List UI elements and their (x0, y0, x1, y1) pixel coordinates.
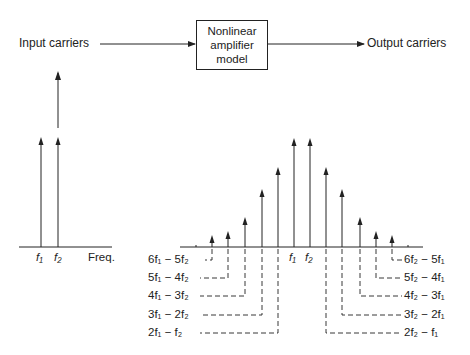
right-leaders (326, 249, 402, 333)
box-line-1: Nonlinear (207, 24, 256, 38)
spectral-line (276, 167, 281, 247)
output-spectral-lines (210, 138, 395, 247)
left-leaders (200, 249, 278, 333)
right-label-6f2-5f1: 6f₂ − 5f₁ (404, 253, 445, 265)
spectral-line (243, 217, 248, 247)
left-label-6f1-5f2: 6f₁ − 5f₂ (148, 253, 189, 265)
spectral-line (308, 138, 313, 247)
box-line-3: model (216, 52, 247, 66)
freq-axis-label: Freq. (88, 251, 115, 263)
nonlinear-amplifier-box: Nonlinear amplifier model (196, 20, 268, 70)
input-carriers-label: Input carriers (19, 36, 89, 50)
left-label-3f1-2f2: 3f₁ − 2f₂ (148, 308, 189, 320)
spectral-line (226, 231, 231, 247)
output-f1-label: f₁ (289, 251, 296, 263)
spectral-line (210, 235, 215, 247)
input-f2-label: f₂ (54, 251, 62, 263)
right-label-3f2-2f1: 3f₂ − 2f₁ (404, 308, 445, 320)
spectral-line (390, 235, 395, 247)
left-label-5f1-4f2: 5f₁ − 4f₂ (148, 271, 189, 283)
left-label-4f1-3f2: 4f₁ − 3f₂ (148, 289, 189, 301)
spectral-line (340, 189, 345, 247)
right-label-4f2-3f1: 4f₂ − 3f₁ (404, 289, 445, 301)
right-label-2f2-f1: 2f₂ − f₁ (404, 326, 438, 338)
input-f1-label: f₁ (36, 251, 43, 263)
input-carrier-f2 (56, 137, 61, 247)
spectral-line (292, 138, 297, 247)
spectral-line (260, 189, 265, 247)
left-label-2f1-f2: 2f₁ − f₂ (148, 326, 182, 338)
output-f2-label: f₂ (305, 251, 313, 263)
input-carrier-f1 (39, 137, 44, 247)
spectral-line (374, 231, 379, 247)
box-line-2: amplifier (210, 38, 253, 52)
right-label-5f2-4f1: 5f₂ − 4f₁ (404, 271, 445, 283)
spectral-line (324, 167, 329, 247)
output-carriers-label: Output carriers (367, 36, 446, 50)
spectral-line (358, 217, 363, 247)
